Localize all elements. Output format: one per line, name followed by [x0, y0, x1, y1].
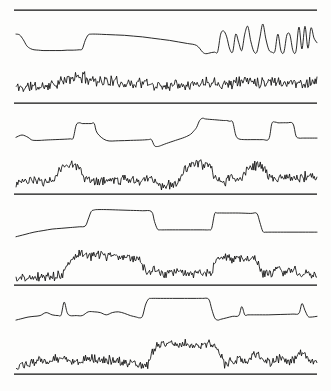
- signal-traces-figure: [0, 0, 331, 391]
- panel-3: [16, 210, 317, 282]
- separator-group: [14, 10, 317, 374]
- smooth-trace-3: [16, 210, 317, 237]
- panel-2: [16, 118, 317, 190]
- panel-4: [16, 298, 317, 369]
- panel-1: [16, 24, 317, 92]
- figure-root: [0, 0, 331, 391]
- noisy-trace-1: [16, 72, 317, 92]
- noisy-trace-2: [16, 160, 317, 190]
- panel-group: [16, 24, 317, 370]
- smooth-trace-1: [16, 24, 317, 54]
- smooth-trace-2: [16, 118, 317, 146]
- noisy-trace-4: [16, 339, 317, 369]
- noisy-trace-3: [16, 250, 317, 281]
- smooth-trace-4: [16, 298, 317, 320]
